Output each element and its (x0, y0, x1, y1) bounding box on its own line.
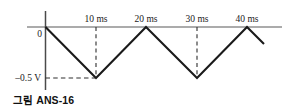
figure-caption: 그림 ANS-16 (13, 92, 74, 107)
x-tick-label-30ms: 30 ms (186, 14, 209, 24)
figure-container: 0 –0.5 V 10 ms 20 ms 30 ms 40 ms 그림 ANS-… (0, 0, 292, 112)
y-tick-label-minus-half-volt: –0.5 V (14, 73, 41, 83)
x-tick-label-10ms: 10 ms (85, 14, 108, 24)
x-tick-label-40ms: 40 ms (236, 14, 259, 24)
waveform-trace (46, 27, 265, 78)
y-tick-label-zero: 0 (37, 29, 42, 39)
x-tick-label-20ms: 20 ms (135, 14, 158, 24)
